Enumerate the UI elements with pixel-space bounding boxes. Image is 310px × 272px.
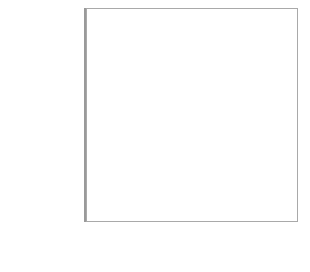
series-lines bbox=[87, 9, 297, 221]
x-axis-tick-labels bbox=[86, 224, 298, 240]
page-body-text-column bbox=[0, 0, 30, 272]
plot-area bbox=[86, 8, 298, 222]
plot-wrapper bbox=[72, 8, 298, 229]
figure-chart-panel bbox=[0, 0, 310, 272]
y-axis-tick-labels bbox=[36, 8, 72, 222]
